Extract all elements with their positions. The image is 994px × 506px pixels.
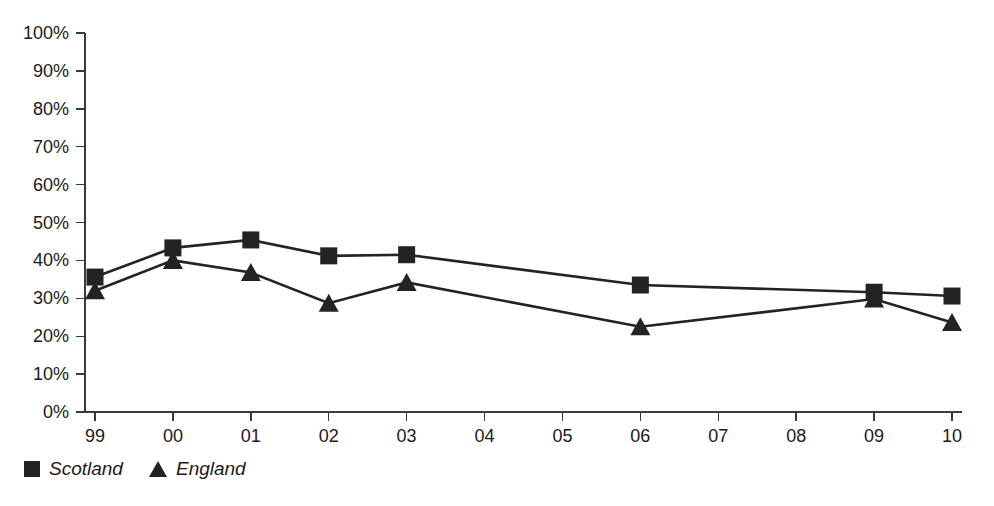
y-axis-tick-label: 50% [33,213,69,233]
data-point-marker-scotland [242,231,259,248]
legend-label-scotland: Scotland [49,458,123,480]
x-axis-tick-label: 02 [319,426,339,446]
x-axis-tick-label: 07 [708,426,728,446]
data-point-marker-scotland [320,247,337,264]
triangle-marker-icon [149,461,167,477]
x-axis-tick-label: 00 [163,426,183,446]
y-axis-tick-label: 90% [33,61,69,81]
y-axis-tick-label: 10% [33,364,69,384]
x-axis-tick-label: 06 [630,426,650,446]
data-point-marker-scotland [944,288,961,305]
legend-item-scotland: Scotland [24,458,123,480]
x-axis-tick-label: 05 [552,426,572,446]
data-point-marker-scotland [632,277,649,294]
data-point-marker-england [942,313,962,331]
y-axis-tick-label: 40% [33,250,69,270]
chart-legend: Scotland England [24,458,246,480]
y-axis-tick-label: 70% [33,137,69,157]
square-marker-icon [24,461,40,477]
data-point-marker-england [319,294,339,312]
chart-plot-area: 0%10%20%30%40%50%60%70%80%90%100%9900010… [0,0,994,506]
x-axis-tick-label: 09 [864,426,884,446]
y-axis-tick-label: 60% [33,175,69,195]
x-axis-tick-label: 08 [786,426,806,446]
legend-item-england: England [149,458,246,480]
x-axis-tick-label: 03 [397,426,417,446]
y-axis-tick-label: 0% [43,402,69,422]
data-point-marker-england [397,273,417,291]
x-axis-tick-label: 01 [241,426,261,446]
y-axis-tick-label: 100% [23,23,69,43]
y-axis-tick-label: 30% [33,288,69,308]
y-axis-tick-label: 80% [33,99,69,119]
x-axis-tick-label: 04 [475,426,495,446]
x-axis-tick-label: 10 [942,426,962,446]
y-axis-tick-label: 20% [33,326,69,346]
line-chart: 0%10%20%30%40%50%60%70%80%90%100%9900010… [0,0,994,506]
legend-label-england: England [176,458,246,480]
x-axis-tick-label: 99 [85,426,105,446]
data-point-marker-scotland [398,246,415,263]
